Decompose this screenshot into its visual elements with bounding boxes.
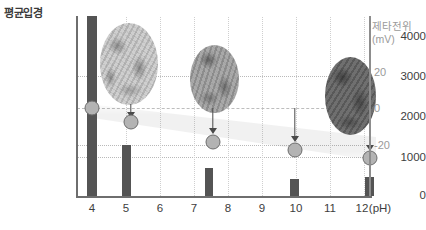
x-axis-line xyxy=(76,196,372,198)
arrow-2-shaft xyxy=(212,108,213,129)
x-tick-label-8: 8 xyxy=(225,202,231,214)
x-tick-label-5: 5 xyxy=(123,202,129,214)
bar-ph-10 xyxy=(290,179,299,196)
bar-ph-5 xyxy=(122,145,131,196)
zeta-marker-ph-7-5 xyxy=(206,135,221,150)
zeta-marker-ph-5 xyxy=(124,115,139,130)
x-tick-label-4: 4 xyxy=(89,202,95,214)
bar-ph-7-5 xyxy=(205,168,213,196)
y-axis-right-line xyxy=(369,16,371,197)
y-tick-label-4000: 4000 xyxy=(358,30,426,42)
y-right-tick-label-minus20: -20 xyxy=(374,139,390,151)
y-right-tick-label-20: 20 xyxy=(374,66,386,78)
y-tick-label-2000: 2000 xyxy=(358,110,426,122)
arrow-3-shaft xyxy=(294,108,295,137)
arrow-2-head xyxy=(209,128,217,134)
x-tick-label-11: 11 xyxy=(324,202,336,214)
y-right-tick-label-0: 0 xyxy=(374,102,380,114)
arrow-3-head xyxy=(291,136,299,142)
zeta-marker-ph-10 xyxy=(288,143,303,158)
y-tick-label-0: 0 xyxy=(358,189,426,201)
y-tick-label-3000: 3000 xyxy=(358,70,426,82)
x-axis-unit-label: (pH) xyxy=(369,202,391,214)
y-axis-left-line xyxy=(76,16,78,197)
x-tick-label-10: 10 xyxy=(290,202,303,214)
zeta-marker-ph-4 xyxy=(85,101,100,116)
x-tick-label-12: 12 xyxy=(356,202,369,214)
x-tick-label-7: 7 xyxy=(191,202,197,214)
x-tick-label-6: 6 xyxy=(157,202,163,214)
y-tick-label-1000: 1000 xyxy=(358,151,426,163)
x-tick-label-9: 9 xyxy=(259,202,265,214)
chart-root: 평균입경 제타전위 (mV) xyxy=(0,0,426,230)
